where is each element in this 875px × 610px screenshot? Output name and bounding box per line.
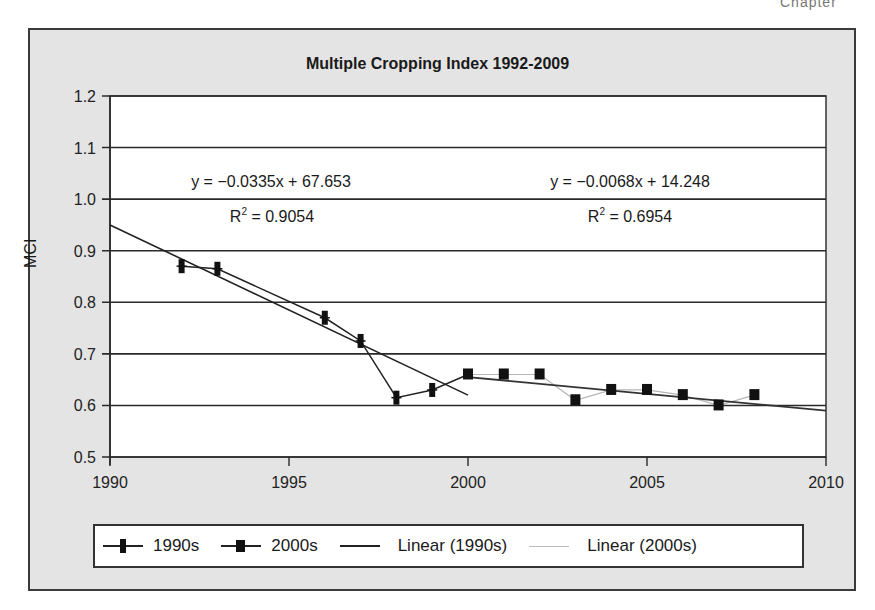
y-tick-label: 0.8 [74,294,96,311]
y-tick-label: 1.0 [74,191,96,208]
y-tick-label: 0.9 [74,243,96,260]
data-point-2000s [749,389,759,400]
data-point-2000s [499,368,509,379]
plot-area: 0.50.60.70.80.91.01.11.21990199520002005… [74,88,844,491]
y-axis-label: MCI [22,239,40,268]
x-tick-label: 1990 [92,474,128,491]
x-tick-label: 2005 [629,474,665,491]
y-tick-label: 1.1 [74,140,96,157]
data-point-2000s [535,368,545,379]
y-tick-label: 0.7 [74,346,96,363]
trend-equation-2000s: y = −0.0068x + 14.248 [550,173,710,190]
y-tick-label: 0.5 [74,449,96,466]
trend-equation-1990s: y = −0.0335x + 67.653 [191,173,351,190]
y-tick-label: 1.2 [74,88,96,105]
legend: 1990s 2000s Linear (1990s) Linear (2000s… [93,524,804,568]
data-point-2000s [463,368,473,379]
x-tick-label: 2010 [808,474,844,491]
dark-line-icon [340,539,380,553]
data-point-2000s [678,389,688,400]
y-tick-label: 0.6 [74,397,96,414]
cross-marker-icon [103,539,143,553]
data-point-2000s [606,384,616,395]
data-point-2000s [714,399,724,410]
x-tick-label: 2000 [450,474,486,491]
light-line-icon [529,539,569,553]
data-point-2000s [642,384,652,395]
legend-item-linear-2000s: Linear (2000s) [529,536,697,556]
square-marker-icon [221,539,261,553]
legend-item-2000s: 2000s [221,536,317,556]
data-point-2000s [570,394,580,405]
x-tick-label: 1995 [271,474,307,491]
legend-item-linear-1990s: Linear (1990s) [340,536,508,556]
chart-plot: 0.50.60.70.80.91.01.11.21990199520002005… [0,0,875,610]
legend-item-1990s: 1990s [103,536,199,556]
